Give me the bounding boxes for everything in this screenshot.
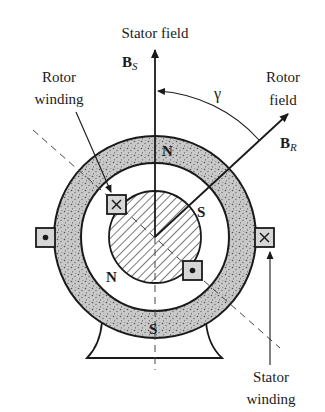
stator-winding-label-line2: winding: [246, 391, 296, 407]
rotor-field-label-line2: field: [269, 92, 297, 108]
rotor-field-label-line1: Rotor: [266, 69, 300, 85]
stator-field-label: Stator field: [121, 25, 189, 41]
rotor-conductor-cross-icon: [107, 195, 126, 214]
rotor-north-pole-label: N: [106, 269, 117, 285]
synchronous-machine-diagram: N S S N Stator field BS Rotor winding Ro…: [0, 0, 325, 412]
gamma-angle-label: γ: [213, 85, 221, 103]
stator-north-pole-label: N: [162, 143, 173, 159]
torque-angle-arc: [158, 91, 259, 140]
stator-conductor-cross-icon: [255, 228, 274, 247]
rotor-conductor-dot-icon: [183, 261, 202, 280]
stator-south-pole-label: S: [149, 321, 157, 337]
br-symbol-label: BR: [280, 135, 297, 153]
rotor-south-pole-label: S: [197, 204, 205, 220]
rotor-winding-label-line1: Rotor: [42, 69, 76, 85]
stator-conductor-dot-icon: [36, 228, 55, 247]
rotor-winding-label-line2: winding: [34, 91, 84, 107]
stator-winding-label-line1: Stator: [253, 369, 289, 385]
bs-symbol-label: BS: [122, 54, 138, 72]
